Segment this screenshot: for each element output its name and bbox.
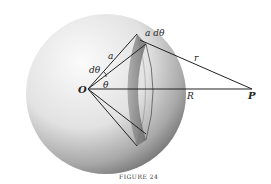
label-O: O [78,84,87,95]
label-P: P [247,90,256,101]
label-R: R [186,91,194,101]
label-a-dtheta: a dθ [145,28,165,38]
figure-caption: FIGURE 24 [119,173,158,180]
sphere-shell-diagram: O P a r R θ dθ a dθ FIGURE 24 [0,0,271,184]
label-r: r [194,53,199,63]
label-dtheta: dθ [89,65,101,75]
label-theta: θ [103,80,109,90]
label-a: a [108,51,113,61]
sphere [26,14,186,174]
